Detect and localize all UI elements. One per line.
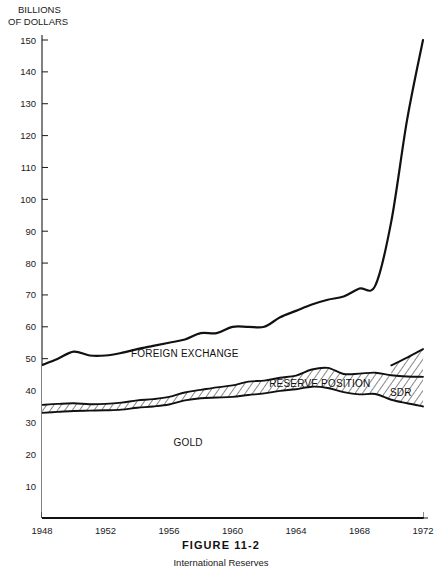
x-tick-label: 1956 xyxy=(158,525,179,536)
y-tick-label: 140 xyxy=(20,66,36,77)
y-tick-label: 130 xyxy=(20,98,36,109)
x-tick-label: 1972 xyxy=(412,525,433,536)
y-tick-label: 40 xyxy=(25,385,36,396)
y-tick-label: 70 xyxy=(25,289,36,300)
figure-caption: International Reserves xyxy=(173,557,268,568)
y-axis-title: BILLIONS OF DOLLARS xyxy=(8,4,68,27)
stacked-area-bands xyxy=(42,40,423,518)
y-tick-label: 10 xyxy=(25,481,36,492)
series-label-sdr: SDR xyxy=(390,387,412,398)
y-axis-title-line1: BILLIONS xyxy=(18,4,61,15)
figure-container: BILLIONS OF DOLLARS 10203040506070809010… xyxy=(0,0,443,572)
y-tick-label: 30 xyxy=(25,417,36,428)
y-tick-label: 110 xyxy=(21,162,36,173)
y-axis-title-line2: OF DOLLARS xyxy=(8,16,68,27)
series-label-foreign-exchange: FOREIGN EXCHANGE xyxy=(131,348,239,359)
x-tick-label: 1952 xyxy=(95,525,116,536)
y-tick-label: 100 xyxy=(20,194,36,205)
x-tick-label: 1964 xyxy=(285,525,306,536)
y-tick-label: 120 xyxy=(20,130,36,141)
y-tick-label: 50 xyxy=(25,353,36,364)
y-tick-label: 20 xyxy=(25,449,36,460)
y-tick-label: 150 xyxy=(20,35,36,46)
series-label-gold: GOLD xyxy=(173,437,202,448)
international-reserves-chart: BILLIONS OF DOLLARS 10203040506070809010… xyxy=(0,0,443,572)
y-tick-label: 60 xyxy=(25,321,36,332)
series-label-reserve-position: RESERVE POSITION xyxy=(269,378,370,389)
x-tick-label: 1948 xyxy=(31,525,52,536)
y-tick-label: 90 xyxy=(25,226,36,237)
y-tick-label: 80 xyxy=(25,258,36,269)
figure-number: FIGURE 11-2 xyxy=(182,539,260,551)
x-tick-label: 1968 xyxy=(349,525,370,536)
x-tick-label: 1960 xyxy=(222,525,243,536)
